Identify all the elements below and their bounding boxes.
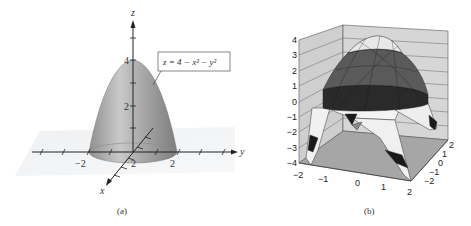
y-tick: −2: [424, 176, 434, 186]
x-tick: 2: [407, 187, 412, 197]
x-tick: −2: [293, 170, 303, 180]
tick-label-x-2: 2: [131, 158, 136, 169]
equation-label: z = 4 − x² − y²: [162, 57, 216, 67]
x-tick: −1: [318, 174, 328, 184]
z-axis-arrow-icon: [131, 20, 136, 28]
panel-b: 4 3 2 1 0 −1 −2 −3 −4 −2 −1 0 1 2 2 1 0 …: [287, 25, 454, 216]
tick-label-y-neg2: −2: [75, 158, 86, 169]
y-axis-label: y: [239, 146, 245, 157]
x-tick: 0: [355, 178, 360, 188]
z-axis-label: z: [130, 7, 135, 18]
z-tick: 1: [292, 81, 297, 91]
z-tick: 0: [292, 97, 297, 107]
x-tick: 1: [381, 182, 386, 192]
z-tick: 4: [292, 35, 297, 45]
z-tick-labels: 4 3 2 1 0 −1 −2 −3 −4: [287, 35, 297, 168]
z-tick: 2: [292, 66, 297, 76]
z-tick: −1: [287, 112, 297, 122]
z-tick: −3: [287, 143, 297, 153]
tick-label-z-4: 4: [124, 55, 129, 66]
tick-label-z-2: 2: [124, 101, 129, 112]
equation-leader-line: [153, 71, 161, 85]
figure-canvas: z x y 4 2 −2 2 2 z = 4 − x² − y² (a): [0, 0, 471, 226]
caption-a: (a): [117, 206, 127, 216]
z-tick: −4: [287, 158, 297, 168]
x-axis-label: x: [99, 185, 105, 196]
panel-a: z x y 4 2 −2 2 2 z = 4 − x² − y² (a): [15, 7, 245, 216]
y-tick: 2: [449, 140, 454, 150]
z-tick: 3: [292, 50, 297, 60]
z-tick: −2: [287, 127, 297, 137]
tick-label-y-2: 2: [170, 158, 175, 169]
caption-b: (b): [364, 206, 375, 216]
